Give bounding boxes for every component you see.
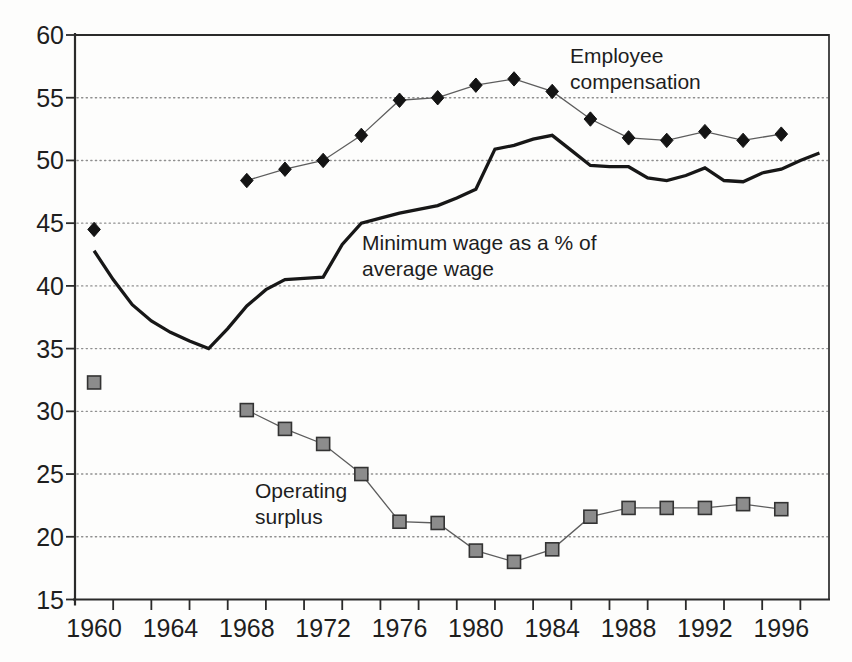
x-axis-label-1992: 1992 xyxy=(677,614,733,642)
square-marker xyxy=(469,544,482,557)
x-axis-label-1988: 1988 xyxy=(601,614,657,642)
square-marker xyxy=(355,468,368,481)
square-marker xyxy=(737,498,750,511)
x-axis-label-1996: 1996 xyxy=(753,614,809,642)
x-axis-label-1984: 1984 xyxy=(524,614,580,642)
y-axis-label-40: 40 xyxy=(36,272,64,300)
diamond-marker xyxy=(737,133,750,147)
diamond-marker xyxy=(431,91,444,105)
y-axis-label-25: 25 xyxy=(36,460,64,488)
diamond-marker xyxy=(546,84,559,98)
square-marker xyxy=(622,501,635,514)
annotation-employee-compensation-line2: compensation xyxy=(570,70,701,93)
x-axis-label-1976: 1976 xyxy=(372,614,428,642)
square-marker xyxy=(278,422,291,435)
diamond-marker xyxy=(775,127,788,141)
y-axis-label-60: 60 xyxy=(36,21,64,49)
annotation-operating-surplus-line2: surplus xyxy=(255,505,323,528)
annotation-minimum-wage-line1: Minimum wage as a % of xyxy=(362,231,597,254)
square-marker xyxy=(660,501,673,514)
y-axis-label-35: 35 xyxy=(36,335,64,363)
diamond-marker xyxy=(699,124,712,138)
square-marker xyxy=(698,501,711,514)
y-axis-label-50: 50 xyxy=(36,146,64,174)
x-axis-label-1972: 1972 xyxy=(295,614,351,642)
scanned-chart-figure: 1520253035404550556019601964196819721976… xyxy=(0,0,852,662)
diamond-marker xyxy=(660,133,673,147)
square-marker xyxy=(88,376,101,389)
square-marker xyxy=(775,503,788,516)
diamond-marker xyxy=(279,162,292,176)
square-marker xyxy=(584,510,597,523)
diamond-marker xyxy=(355,128,368,142)
x-axis-label-1964: 1964 xyxy=(143,614,199,642)
y-axis-label-15: 15 xyxy=(36,586,64,614)
chart-canvas: 1520253035404550556019601964196819721976… xyxy=(0,0,852,662)
x-axis-label-1980: 1980 xyxy=(448,614,504,642)
x-axis-label-1960: 1960 xyxy=(66,614,122,642)
x-axis-label-1968: 1968 xyxy=(219,614,275,642)
square-marker xyxy=(393,515,406,528)
diamond-marker xyxy=(393,93,406,107)
diamond-marker xyxy=(317,153,330,167)
diamond-marker xyxy=(470,78,483,92)
annotation-operating-surplus-line1: Operating xyxy=(255,479,347,502)
diamond-marker xyxy=(508,72,521,86)
diamond-marker xyxy=(240,173,253,187)
square-marker xyxy=(240,404,253,417)
square-marker xyxy=(431,516,444,529)
annotation-minimum-wage-line2: average wage xyxy=(362,257,494,280)
square-marker xyxy=(317,437,330,450)
annotation-employee-compensation-line1: Employee xyxy=(570,44,663,67)
y-axis-label-55: 55 xyxy=(36,84,64,112)
diamond-marker xyxy=(584,112,597,126)
diamond-marker xyxy=(622,131,635,145)
diamond-marker xyxy=(88,222,101,236)
square-marker xyxy=(546,543,559,556)
square-marker xyxy=(508,555,521,568)
y-axis-label-20: 20 xyxy=(36,523,64,551)
y-axis-label-45: 45 xyxy=(36,209,64,237)
y-axis-label-30: 30 xyxy=(36,397,64,425)
